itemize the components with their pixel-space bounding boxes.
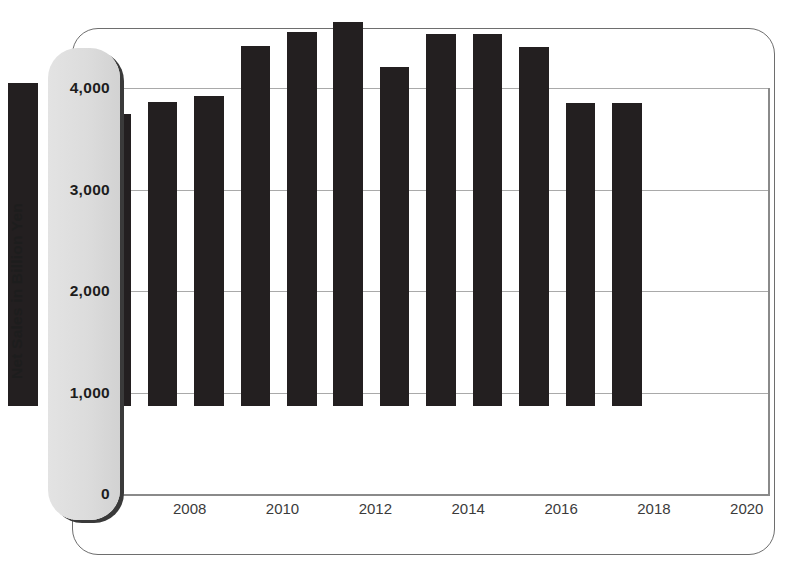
y-axis-title: Net Sales in Billion Yen [2,88,32,494]
bar-2010 [148,102,178,407]
figure-caption [30,574,770,582]
x-tick-label-2014: 2014 [452,500,485,517]
figure-bar-chart-net-sales: 4,0003,0002,0001,0000 Net Sales in Billi… [0,0,800,582]
bar-2012 [241,46,271,406]
x-tick-label-2016: 2016 [544,500,577,517]
bar-2018 [519,47,549,406]
plot-right-axis-line [768,88,770,494]
x-tick-label-2008: 2008 [173,500,206,517]
y-tick-label-0: 0 [101,485,110,503]
bar-2014 [333,22,363,406]
x-tick-label-2018: 2018 [637,500,670,517]
x-axis-baseline [120,494,770,496]
x-tick-label-2012: 2012 [359,500,392,517]
bar-2013 [287,32,317,406]
bar-2016 [426,34,456,407]
y-tick-label-4000: 4,000 [70,79,110,97]
x-tick-label-2010: 2010 [266,500,299,517]
y-tick-label-1000: 1,000 [70,384,110,402]
bar-2020 [612,103,642,406]
bar-2019 [566,103,596,406]
y-axis-label-panel: 4,0003,0002,0001,0000 [48,48,120,520]
y-tick-label-3000: 3,000 [70,181,110,199]
bar-2011 [194,96,224,406]
bar-2017 [473,34,503,407]
x-axis-tick-labels: 2008201020122014201620182020 [120,500,770,526]
bar-2015 [380,67,410,406]
x-tick-label-2020: 2020 [730,500,763,517]
y-tick-label-2000: 2,000 [70,282,110,300]
